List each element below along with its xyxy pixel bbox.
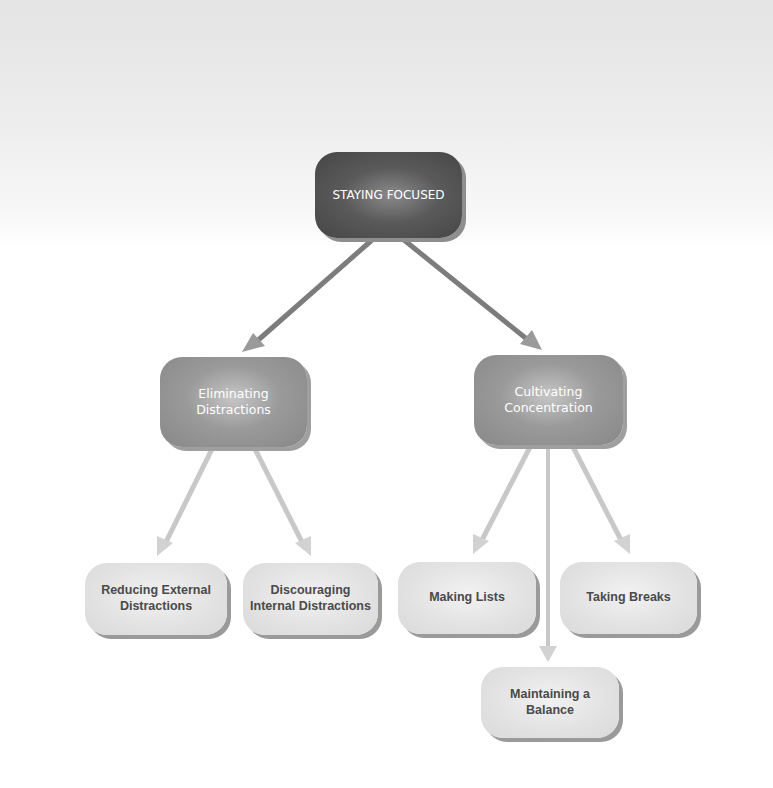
connector-arrows [0,0,773,788]
node-label-line1: Reducing External [101,583,211,599]
node-cultivating-concentration: Cultivating Concentration [474,355,623,445]
node-eliminating-distractions: Eliminating Distractions [160,357,307,447]
arrow-root-to-eliminating [242,240,372,352]
node-discouraging-internal-distractions: Discouraging Internal Distractions [243,563,378,635]
node-maintaining-a-balance: Maintaining a Balance [481,667,619,738]
node-staying-focused: STAYING FOCUSED [315,152,462,238]
arrow-eliminating-to-reducing [157,449,212,556]
node-label-line1: Eliminating [196,386,271,402]
arrow-cultivating-to-taking-breaks [573,447,630,554]
node-label-line1: Maintaining a [510,687,590,703]
node-taking-breaks: Taking Breaks [560,562,697,634]
node-label-line2: Distractions [196,402,271,418]
arrow-cultivating-to-maintaining [539,447,557,662]
node-making-lists: Making Lists [398,562,536,634]
node-label-line1: Cultivating [504,384,592,400]
node-label: Taking Breaks [586,590,671,606]
arrow-cultivating-to-making-lists [473,447,530,554]
arrow-eliminating-to-discouraging [255,449,311,556]
node-label-line1: Discouraging [250,583,371,599]
node-label-line2: Concentration [504,400,592,416]
node-label: STAYING FOCUSED [332,188,444,203]
node-label: Making Lists [429,590,505,606]
node-reducing-external-distractions: Reducing External Distractions [85,563,227,635]
node-label-line2: Balance [510,703,590,719]
node-label-line2: Distractions [101,599,211,615]
node-label-line2: Internal Distractions [250,599,371,615]
arrow-root-to-cultivating [404,240,542,350]
